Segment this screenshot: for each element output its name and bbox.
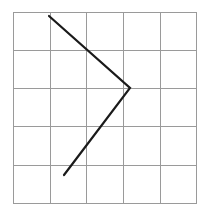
bent-line-path bbox=[49, 16, 130, 175]
grid-lines bbox=[13, 12, 197, 204]
grid-diagram bbox=[0, 0, 204, 217]
